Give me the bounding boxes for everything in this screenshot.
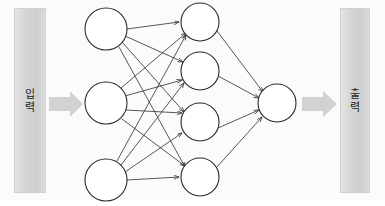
neural-network-diagram: 입력 출력 (0, 0, 385, 206)
hidden-node-2 (181, 52, 219, 90)
hidden-node-4 (181, 158, 219, 196)
input-block-arrow (49, 91, 83, 117)
input-node-3 (85, 159, 127, 201)
output-block-arrow (302, 91, 337, 117)
hidden-layer-nodes (181, 3, 219, 196)
network-graph-layer (0, 0, 385, 206)
input-node-2 (85, 82, 127, 124)
output-layer-nodes (258, 84, 296, 122)
input-layer-nodes (85, 8, 127, 201)
output-node-1 (258, 84, 296, 122)
hidden-to-output-connections (216, 31, 263, 168)
hidden-node-3 (181, 103, 219, 141)
hidden-node-1 (181, 3, 219, 41)
input-node-1 (85, 8, 127, 50)
